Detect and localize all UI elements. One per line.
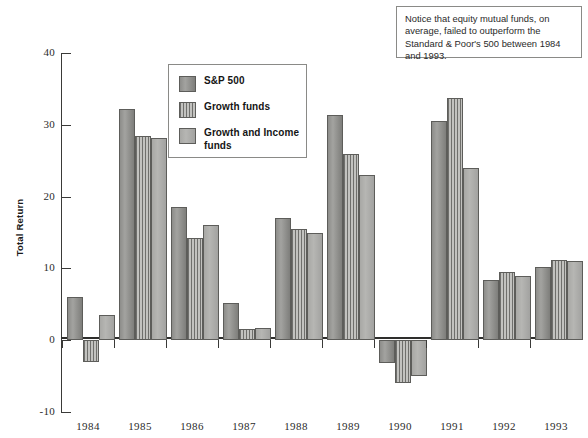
bar-1984-series-2 [83, 340, 99, 362]
bar-1991-series-2 [447, 98, 463, 341]
bar-1984-series-3 [99, 315, 115, 340]
bar-1992-series-1 [483, 280, 499, 340]
bar-1990-series-3 [411, 340, 427, 376]
y-tick-label-10: 10 [21, 261, 55, 273]
bar-1986-series-2 [187, 238, 203, 341]
y-tick-label-40: 40 [21, 46, 55, 58]
x-tick-1991 [426, 340, 427, 348]
annotation-text: Notice that equity mutual funds, on aver… [405, 13, 574, 62]
bar-1992-series-2 [499, 272, 515, 340]
bar-group-1984: 1984 [62, 53, 114, 412]
bar-group-1990: 1990 [374, 53, 426, 412]
bar-chart: Total Return -10010203040 19841985198619… [0, 0, 588, 438]
bar-group-1989: 1989 [322, 53, 374, 412]
bar-1985-series-2 [135, 136, 151, 341]
bar-1989-series-2 [343, 154, 359, 341]
bar-1985-series-1 [119, 109, 135, 340]
bar-1992-series-3 [515, 276, 531, 341]
x-tick-1986 [166, 340, 167, 348]
legend-label-growth-income-funds: Growth and Income funds [204, 127, 300, 152]
legend-swatch-sp500 [179, 76, 196, 92]
bar-1985-series-3 [151, 138, 167, 340]
bar-1988-series-3 [307, 233, 323, 341]
plot-area: 1984198519861987198819891990199119921993 [62, 53, 582, 412]
bar-1990-series-2 [395, 340, 411, 383]
bar-1984-series-1 [67, 297, 83, 340]
bar-group-1991: 1991 [426, 53, 478, 412]
bar-1993-series-3 [567, 261, 583, 340]
y-tick--10 [61, 412, 71, 413]
annotation-box: Notice that equity mutual funds, on aver… [396, 6, 582, 58]
bar-group-1992: 1992 [478, 53, 530, 412]
bar-1993-series-1 [535, 267, 551, 340]
legend: S&P 500 Growth funds Growth and Income f… [168, 64, 307, 158]
y-tick-label--10: -10 [21, 405, 55, 417]
x-tick-1990 [374, 340, 375, 348]
x-tick-1993 [530, 340, 531, 348]
x-axis-label-1993: 1993 [521, 420, 588, 432]
bar-1991-series-1 [431, 121, 447, 340]
legend-item-sp500: S&P 500 [179, 75, 245, 92]
legend-swatch-growth-income-funds [179, 128, 196, 144]
y-tick-label-20: 20 [21, 190, 55, 202]
legend-swatch-growth-funds [179, 102, 196, 118]
bar-1988-series-1 [275, 218, 291, 340]
legend-item-growth-income-funds: Growth and Income funds [179, 127, 300, 152]
bar-1986-series-1 [171, 207, 187, 340]
x-tick-1989 [322, 340, 323, 348]
y-tick-label-30: 30 [21, 118, 55, 130]
legend-label-growth-funds: Growth funds [204, 101, 270, 114]
bar-1989-series-1 [327, 115, 343, 340]
bar-1990-series-1 [379, 340, 395, 363]
bar-1987-series-2 [239, 329, 255, 340]
x-tick-1984 [62, 340, 63, 348]
bar-1987-series-1 [223, 303, 239, 340]
legend-item-growth-funds: Growth funds [179, 101, 270, 118]
bar-1987-series-3 [255, 328, 271, 340]
x-tick-1992 [478, 340, 479, 348]
bar-group-1993: 1993 [530, 53, 582, 412]
x-tick-1987 [218, 340, 219, 348]
bar-1988-series-2 [291, 229, 307, 340]
x-tick-1988 [270, 340, 271, 348]
y-tick-label-0: 0 [21, 333, 55, 345]
x-tick-1985 [114, 340, 115, 348]
bar-group-1985: 1985 [114, 53, 166, 412]
bar-1989-series-3 [359, 175, 375, 340]
bar-1993-series-2 [551, 260, 567, 340]
legend-label-sp500: S&P 500 [204, 75, 245, 88]
bar-1986-series-3 [203, 225, 219, 340]
bar-1991-series-3 [463, 168, 479, 340]
